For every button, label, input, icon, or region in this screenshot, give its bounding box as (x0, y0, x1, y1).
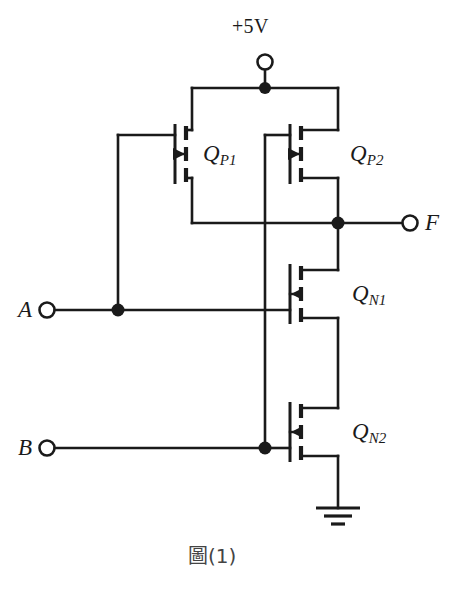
ground-symbol (316, 508, 360, 524)
port-label-b: B (18, 436, 32, 459)
device-label-qn1: QN1 (352, 282, 387, 308)
port-label-a: A (18, 298, 32, 321)
device-label-qp2-name: Q (350, 141, 367, 166)
f-output-terminal-circle[interactable] (403, 216, 418, 231)
b-input-junction-dot (259, 442, 272, 455)
vdd-rail-group (192, 82, 338, 130)
transistor-qn1 (118, 264, 338, 408)
qp1-bulk-arrow-icon (173, 148, 185, 160)
output-net-f (192, 216, 418, 271)
circuit-schematic: +5V A B F QP1 QP2 QN1 QN2 圖(1) (0, 0, 450, 590)
supply-label: +5V (232, 16, 269, 36)
device-label-qn1-name: Q (352, 281, 369, 306)
device-label-qp2-subscript: P2 (367, 152, 384, 168)
transistor-qn2 (265, 402, 338, 508)
b-input-terminal-circle[interactable] (40, 441, 55, 456)
qn2-bulk-arrow-icon (291, 426, 303, 438)
a-input-terminal-circle[interactable] (40, 303, 55, 318)
device-label-qn2-name: Q (352, 419, 369, 444)
supply-terminal-circle (258, 55, 273, 70)
device-label-qp1: QP1 (203, 142, 237, 168)
device-label-qp1-subscript: P1 (220, 152, 237, 168)
transistor-qp1 (118, 124, 192, 223)
vdd-rail-junction-dot (259, 82, 271, 94)
qn1-bulk-arrow-icon (291, 288, 303, 300)
device-label-qp1-name: Q (203, 141, 220, 166)
qp2-bulk-arrow-icon (288, 148, 300, 160)
device-label-qn2: QN2 (352, 420, 387, 446)
device-label-qn2-subscript: N2 (369, 430, 387, 446)
device-label-qn1-subscript: N1 (369, 292, 387, 308)
input-net-a (40, 135, 125, 318)
a-input-junction-dot (112, 304, 125, 317)
figure-caption: 圖(1) (188, 546, 236, 566)
input-net-b (40, 441, 272, 456)
transistor-qp2 (265, 124, 338, 448)
device-label-qp2: QP2 (350, 142, 384, 168)
port-label-f: F (425, 211, 439, 234)
